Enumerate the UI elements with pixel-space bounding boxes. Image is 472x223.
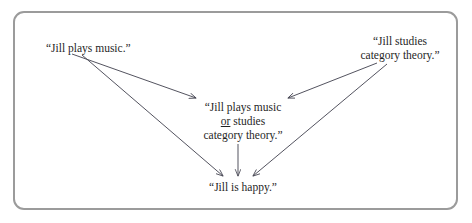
node-jill-studies-category-theory-line-2: category theory.”	[348, 48, 452, 62]
node-jill-is-happy: “Jill is happy.”	[189, 180, 297, 194]
node-jill-plays-music-line-1: “Jill plays music.”	[46, 41, 131, 55]
node-disjunction-line-2: or studies	[190, 114, 296, 128]
node-disjunction-line-2-rest: studies	[230, 115, 265, 127]
node-jill-plays-music: “Jill plays music.”	[46, 41, 131, 55]
node-jill-studies-category-theory-line-1: “Jill studies	[348, 34, 452, 48]
disjunction-operator-or: or	[221, 115, 231, 127]
node-jill-plays-music-or-studies-category-theory: “Jill plays music or studies category th…	[190, 100, 296, 142]
node-disjunction-line-3: category theory.”	[190, 128, 296, 142]
node-disjunction-line-1: “Jill plays music	[190, 100, 296, 114]
node-jill-is-happy-line-1: “Jill is happy.”	[189, 180, 297, 194]
edge-music-to-disjunction	[72, 54, 196, 98]
edge-category-to-disjunction	[288, 63, 377, 98]
logic-diagram-figure: “Jill plays music.” “Jill studies catego…	[0, 0, 472, 223]
node-jill-studies-category-theory: “Jill studies category theory.”	[348, 34, 452, 62]
